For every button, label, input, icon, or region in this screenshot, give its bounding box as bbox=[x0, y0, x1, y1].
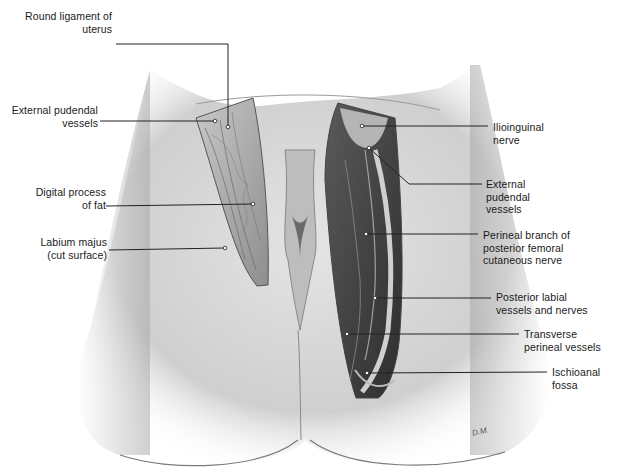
label-perineal-branch: Perineal branch of posterior femoral cut… bbox=[483, 229, 613, 267]
label-digital-process: Digital process of fat bbox=[4, 186, 106, 211]
leader-endpoint-perineal-branch bbox=[364, 232, 368, 236]
leader-endpoint-external-pudendal-right bbox=[367, 146, 371, 150]
leader-endpoint-digital-process bbox=[251, 202, 255, 206]
leader-endpoint-ischioanal-fossa bbox=[365, 371, 369, 375]
leader-endpoint-transverse-perineal bbox=[345, 332, 349, 336]
label-posterior-labial: Posterior labial vessels and nerves bbox=[496, 291, 616, 316]
label-ilioinguinal: Ilioinguinal nerve bbox=[493, 121, 593, 146]
label-ischioanal-fossa: Ischioanal fossa bbox=[552, 366, 617, 391]
label-external-pudendal-right: External pudendal vessels bbox=[486, 178, 586, 216]
leader-endpoint-round-ligament bbox=[226, 125, 230, 129]
label-labium-majus: Labium majus (cut surface) bbox=[4, 236, 107, 261]
leader-endpoint-external-pudendal-left bbox=[213, 119, 217, 123]
leader-endpoint-posterior-labial bbox=[373, 296, 377, 300]
leader-endpoint-labium-majus bbox=[223, 246, 227, 250]
label-round-ligament: Round ligament of uterus bbox=[4, 10, 112, 35]
label-external-pudendal-left: External pudendal vessels bbox=[4, 104, 98, 129]
label-transverse-perineal: Transverse perineal vessels bbox=[524, 328, 617, 353]
leader-endpoint-ilioinguinal bbox=[360, 124, 364, 128]
